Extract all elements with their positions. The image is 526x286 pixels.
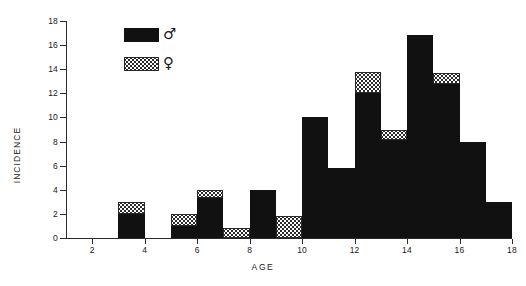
bar-segment-female bbox=[223, 228, 249, 238]
histogram-bar bbox=[197, 190, 223, 238]
bar-segment-female bbox=[197, 190, 223, 198]
bar-segment-female bbox=[171, 214, 197, 226]
legend-swatch-male bbox=[124, 28, 159, 42]
bar-segment-male bbox=[250, 190, 276, 238]
histogram-bar bbox=[223, 228, 249, 238]
histogram-bar bbox=[381, 130, 407, 239]
bar-segment-female bbox=[118, 202, 144, 214]
histogram-bar bbox=[328, 168, 354, 238]
histogram-bar bbox=[118, 202, 144, 238]
histogram-bar bbox=[486, 202, 512, 238]
histogram-bar bbox=[302, 117, 328, 238]
histogram-bar bbox=[171, 214, 197, 238]
histogram-bar bbox=[355, 72, 381, 238]
bar-segment-male bbox=[328, 168, 354, 238]
legend-item-female: ♀ bbox=[124, 53, 176, 74]
bar-series-container bbox=[0, 0, 526, 286]
chart-legend: ♂ ♀ bbox=[124, 24, 176, 82]
legend-swatch-female bbox=[124, 57, 159, 71]
female-symbol-icon: ♀ bbox=[163, 56, 174, 71]
bar-segment-male bbox=[486, 202, 512, 238]
bar-segment-male bbox=[197, 198, 223, 238]
incidence-by-age-histogram: 024681012141618 24681012141618 INCIDENCE… bbox=[0, 0, 526, 286]
histogram-bar bbox=[250, 190, 276, 238]
bar-segment-male bbox=[302, 117, 328, 238]
bar-segment-male bbox=[407, 35, 433, 238]
histogram-bar bbox=[460, 142, 486, 238]
histogram-bar bbox=[276, 216, 302, 238]
bar-segment-male bbox=[171, 226, 197, 238]
bar-segment-female bbox=[381, 130, 407, 141]
histogram-bar bbox=[407, 35, 433, 238]
histogram-bar bbox=[433, 73, 459, 238]
bar-segment-male bbox=[118, 214, 144, 238]
bar-segment-male bbox=[460, 142, 486, 238]
male-symbol-icon: ♂ bbox=[163, 27, 176, 42]
bar-segment-female bbox=[433, 73, 459, 84]
bar-segment-female bbox=[276, 216, 302, 238]
bar-segment-male bbox=[433, 84, 459, 238]
legend-item-male: ♂ bbox=[124, 24, 176, 45]
bar-segment-male bbox=[355, 93, 381, 238]
bar-segment-male bbox=[381, 140, 407, 238]
bar-segment-female bbox=[355, 72, 381, 94]
